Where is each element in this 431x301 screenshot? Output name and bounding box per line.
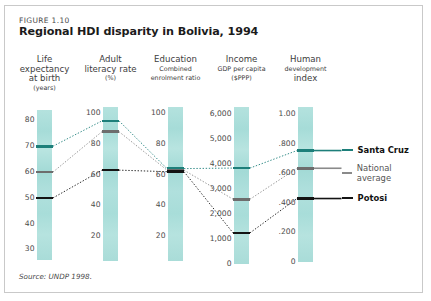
data-marker-national-average-axis1: [36, 171, 53, 174]
data-marker-santa-cruz-axis5: [297, 149, 314, 152]
connector-national-average-seg2: [119, 132, 167, 171]
axis-tick-5-2: .800: [250, 139, 296, 148]
axis-tick-2-1: 100: [55, 108, 101, 117]
column-header-5: Humandevelopmentindex: [261, 55, 351, 84]
axis-tick-1-2: 70: [0, 141, 35, 150]
axis-bar-5: [298, 107, 313, 262]
data-marker-santa-cruz-axis2: [102, 120, 119, 123]
axis-tick-5-5: .200: [250, 227, 296, 236]
axis-tick-1-5: 40: [0, 219, 35, 228]
chart-plot-area: Lifeexpectancyat birth(years)Adultlitera…: [5, 6, 424, 294]
data-marker-potosi-axis2: [102, 169, 119, 172]
axis-tick-5-6: 0: [250, 257, 296, 266]
legend-label-national-average: National average: [357, 163, 424, 183]
axis-bar-3: [168, 107, 183, 261]
connector-santa-cruz-seg4: [250, 151, 297, 169]
data-marker-national-average-axis5: [297, 167, 314, 170]
legend-item-potosi[interactable]: Potosi: [342, 193, 388, 203]
axis-tick-1-6: 30: [0, 244, 35, 253]
axis-tick-4-2: 5,000: [186, 134, 232, 143]
axis-tick-4-4: 3,000: [186, 184, 232, 193]
axis-bar-1: [37, 110, 52, 260]
axis-tick-4-7: 0: [186, 259, 232, 268]
axis-tick-2-3: 60: [55, 170, 101, 179]
axis-tick-4-3: 4,000: [186, 159, 232, 168]
legend-label-santa-cruz: Santa Cruz: [358, 145, 409, 155]
data-marker-potosi-axis5: [297, 197, 314, 200]
source-note: Source: UNDP 1998.: [19, 272, 92, 281]
legend-label-potosi: Potosi: [358, 193, 388, 203]
axis-tick-5-1: 1.00: [250, 109, 296, 118]
axis-tick-4-1: 6,000: [186, 109, 232, 118]
axis-tick-4-6: 1,000: [186, 234, 232, 243]
connector-potosi-seg3: [184, 172, 233, 233]
axis-tick-3-3: 60: [120, 170, 166, 179]
data-marker-santa-cruz-axis4: [233, 167, 250, 170]
axis-bar-4: [234, 107, 249, 264]
connector-national-average-seg1: [53, 132, 102, 172]
legend-item-santa-cruz[interactable]: Santa Cruz: [342, 145, 409, 155]
column-header-line1-5: Human: [261, 55, 351, 65]
axis-tick-1-3: 60: [0, 167, 35, 176]
axis-tick-1-4: 50: [0, 193, 35, 202]
data-marker-potosi-axis3: [167, 170, 184, 173]
axis-tick-2-5: 20: [55, 231, 101, 240]
axis-tick-2-2: 80: [55, 139, 101, 148]
axis-tick-2-4: 40: [55, 200, 101, 209]
legend-swatch-potosi: [342, 197, 353, 199]
data-marker-potosi-axis1: [36, 197, 53, 200]
data-marker-potosi-axis4: [233, 232, 250, 235]
column-header-unit-1: (years): [0, 84, 90, 94]
axis-tick-3-5: 20: [120, 231, 166, 240]
data-marker-national-average-axis2: [102, 130, 119, 133]
axis-tick-1-1: 80: [0, 115, 35, 124]
axis-tick-3-2: 80: [120, 139, 166, 148]
axis-tick-3-4: 40: [120, 200, 166, 209]
column-header-line3-5: index: [261, 74, 351, 84]
figure-frame: FIGURE 1.10 Regional HDI disparity in Bo…: [4, 5, 423, 293]
legend-swatch-national-average: [342, 172, 352, 174]
connector-santa-cruz-seg3: [184, 168, 233, 169]
axis-tick-3-1: 100: [120, 108, 166, 117]
axis-tick-4-5: 2,000: [186, 209, 232, 218]
legend-swatch-santa-cruz: [342, 149, 353, 151]
data-marker-national-average-axis4: [233, 198, 250, 201]
axis-tick-5-3: .600: [250, 168, 296, 177]
data-marker-santa-cruz-axis1: [36, 145, 53, 148]
legend-item-national-average[interactable]: National average: [342, 163, 425, 183]
axis-tick-5-4: .400: [250, 198, 296, 207]
